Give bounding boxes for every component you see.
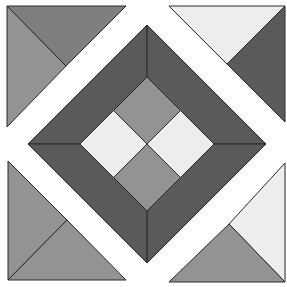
quilt-block [0, 0, 287, 287]
